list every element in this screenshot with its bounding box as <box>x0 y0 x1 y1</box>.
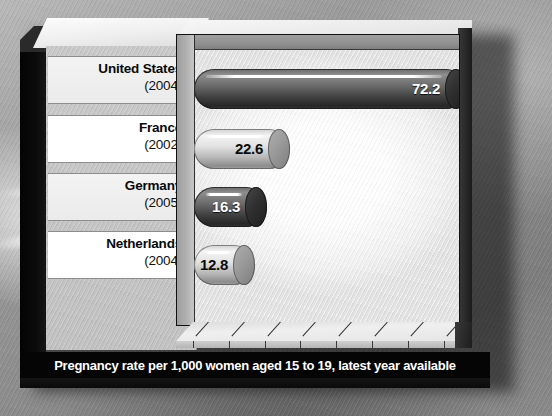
bar-highlight <box>206 135 265 138</box>
bar-end-cap <box>245 187 267 227</box>
bar-end-cap <box>445 69 460 109</box>
x-axis-tick <box>336 341 337 348</box>
plot-panel: 72.222.616.312.8 <box>176 20 472 336</box>
category-label-cell: Germany(2005) <box>48 173 190 221</box>
plot-right-face <box>458 28 472 336</box>
bar: 16.3 <box>194 187 266 227</box>
category-label-column: United States(2004)France(2002)Germany(2… <box>46 46 197 350</box>
category-year: (2004) <box>52 77 182 94</box>
bar-highlight <box>206 75 442 78</box>
bar-highlight <box>206 251 230 254</box>
bar-value-label: 72.2 <box>412 79 440 98</box>
x-axis-tick <box>372 341 373 348</box>
x-axis-platform: 01020304050607080 <box>176 322 472 348</box>
bar: 22.6 <box>194 129 289 169</box>
x-axis-platform-right <box>455 322 472 348</box>
x-axis-tick <box>265 341 266 348</box>
plot-left-gutter <box>177 35 195 326</box>
bar: 12.8 <box>194 245 254 285</box>
bar-value-label: 22.6 <box>235 139 263 158</box>
category-year: (2005) <box>52 194 182 211</box>
category-country-name: United States <box>52 60 182 77</box>
axis-platform-slash <box>195 322 208 337</box>
axis-platform-slash <box>374 322 387 337</box>
axis-platform-slash <box>231 322 244 337</box>
axis-platform-slash <box>267 322 280 337</box>
x-axis-tick <box>300 341 301 348</box>
slab-bottom-front <box>20 378 490 388</box>
category-country-name: Netherlands <box>52 235 182 252</box>
x-axis-tick <box>229 341 230 348</box>
axis-platform-slash <box>410 322 423 337</box>
plot-top-band <box>177 35 460 50</box>
x-axis-tick <box>193 341 194 348</box>
category-year: (2002) <box>52 136 182 153</box>
category-label-cell: Netherlands(2004) <box>48 231 190 279</box>
category-label-cell: France(2002) <box>48 115 190 163</box>
slab-left-face <box>20 40 46 388</box>
x-axis-tick <box>408 341 409 348</box>
bar-value-label: 16.3 <box>212 197 240 216</box>
caption-bar: Pregnancy rate per 1,000 women aged 15 t… <box>20 352 490 378</box>
plot-area: 72.222.616.312.8 <box>176 34 460 326</box>
axis-platform-slash <box>302 322 315 337</box>
bar-value-label: 12.8 <box>200 255 228 274</box>
x-axis-platform-front <box>176 341 456 348</box>
category-year: (2004) <box>52 252 182 269</box>
x-axis-platform-top <box>176 322 472 342</box>
category-country-name: France <box>52 119 182 136</box>
bar-highlight <box>206 193 242 196</box>
category-country-name: Germany <box>52 177 182 194</box>
axis-platform-slash <box>338 322 351 337</box>
bar-end-cap <box>268 129 290 169</box>
caption-text: Pregnancy rate per 1,000 women aged 15 t… <box>54 358 456 373</box>
x-axis-tick <box>479 341 480 348</box>
x-axis-tick <box>444 341 445 348</box>
category-label-cell: United States(2004) <box>48 56 190 104</box>
bar-end-cap <box>233 245 255 285</box>
bar: 72.2 <box>194 69 460 109</box>
